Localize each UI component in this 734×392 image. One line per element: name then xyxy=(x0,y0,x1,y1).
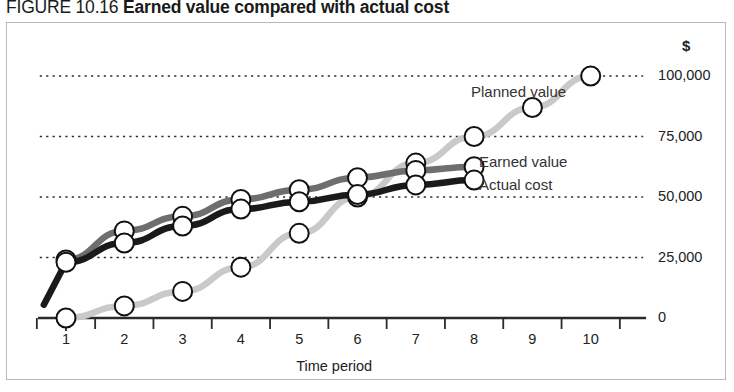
x-axis-tick-label: 3 xyxy=(179,331,187,347)
x-axis-tick-label: 9 xyxy=(528,331,536,347)
y-axis-unit-label: $ xyxy=(682,37,690,54)
data-point-marker xyxy=(57,309,76,328)
data-point-marker xyxy=(290,224,309,243)
data-point-marker xyxy=(290,192,309,211)
data-point-marker xyxy=(231,258,250,277)
data-point-marker xyxy=(115,296,134,315)
figure-title: Earned value compared with actual cost xyxy=(123,0,449,17)
y-axis-tick-label: 25,000 xyxy=(658,249,702,265)
figure-caption: FIGURE 10.16 Earned value compared with … xyxy=(6,0,449,18)
y-axis-tick-label: 100,000 xyxy=(658,67,710,83)
data-point-marker xyxy=(406,175,425,194)
x-axis-tick-label: 4 xyxy=(237,331,245,347)
x-axis-tick-label: 7 xyxy=(412,331,420,347)
y-axis-tick-label: 75,000 xyxy=(658,128,702,144)
x-axis-tick-label: 6 xyxy=(353,331,361,347)
data-point-marker xyxy=(115,233,134,252)
data-point-marker xyxy=(348,185,367,204)
data-point-marker xyxy=(173,282,192,301)
x-axis-tick-label: 2 xyxy=(120,331,128,347)
x-axis-tick-label: 5 xyxy=(295,331,303,347)
x-axis-tick-label: 1 xyxy=(62,331,70,347)
data-point-marker xyxy=(231,200,250,219)
x-axis-tick-label: 8 xyxy=(470,331,478,347)
chart-plot-area xyxy=(7,23,724,378)
chart-frame: $025,00050,00075,000100,00012345678910Ti… xyxy=(6,22,726,380)
x-axis-title: Time period xyxy=(296,358,372,374)
data-point-marker xyxy=(523,98,542,117)
data-point-marker xyxy=(581,67,600,86)
y-axis-tick-label: 0 xyxy=(658,309,666,325)
series-annotation-label: Earned value xyxy=(479,153,567,170)
data-point-marker xyxy=(173,217,192,236)
data-point-marker xyxy=(57,253,76,272)
data-point-marker xyxy=(465,127,484,146)
figure-number: FIGURE 10.16 xyxy=(6,0,118,17)
series-annotation-label: Actual cost xyxy=(479,176,552,193)
series-annotation-label: Planned value xyxy=(471,83,566,100)
y-axis-tick-label: 50,000 xyxy=(658,188,702,204)
x-axis-tick-label: 10 xyxy=(583,331,599,347)
